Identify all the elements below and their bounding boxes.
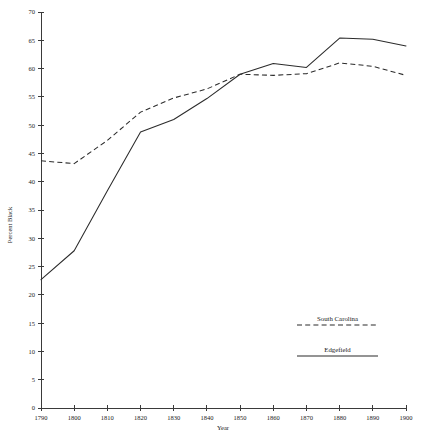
y-tick-label: 15 bbox=[29, 320, 36, 327]
x-axis-ticks: 1790180018101820183018401850186018701880… bbox=[35, 405, 413, 421]
series-line-south-carolina bbox=[41, 63, 406, 164]
y-tick-label: 45 bbox=[29, 150, 36, 157]
line-chart: 0510152025303540455055606570 17901800181… bbox=[0, 0, 425, 437]
y-tick-label: 20 bbox=[29, 291, 36, 298]
x-tick-label: 1870 bbox=[300, 414, 313, 421]
x-tick-label: 1810 bbox=[101, 414, 114, 421]
y-tick-label: 50 bbox=[29, 122, 36, 129]
x-tick-label: 1830 bbox=[167, 414, 180, 421]
y-axis-ticks: 0510152025303540455055606570 bbox=[29, 8, 45, 411]
x-tick-label: 1820 bbox=[134, 414, 147, 421]
legend-label-edgefield: Edgefield bbox=[324, 346, 351, 353]
axes bbox=[41, 12, 406, 408]
x-axis-title: Year bbox=[217, 424, 230, 431]
y-tick-label: 65 bbox=[29, 37, 36, 44]
x-tick-label: 1860 bbox=[267, 414, 280, 421]
y-tick-label: 5 bbox=[32, 376, 35, 383]
x-tick-label: 1850 bbox=[234, 414, 247, 421]
y-tick-label: 25 bbox=[29, 263, 36, 270]
y-tick-label: 40 bbox=[29, 178, 36, 185]
x-tick-label: 1890 bbox=[366, 414, 379, 421]
legend-label-south-carolina: South Carolina bbox=[317, 315, 358, 322]
y-axis-title: Percent Black bbox=[6, 206, 13, 243]
x-tick-label: 1800 bbox=[68, 414, 81, 421]
data-series-group bbox=[41, 38, 406, 280]
y-tick-label: 60 bbox=[29, 65, 36, 72]
y-tick-label: 30 bbox=[29, 235, 36, 242]
x-tick-label: 1880 bbox=[333, 414, 346, 421]
x-tick-label: 1840 bbox=[200, 414, 213, 421]
legend: South CarolinaEdgefield bbox=[297, 315, 378, 356]
y-tick-label: 70 bbox=[29, 8, 36, 15]
x-tick-label: 1790 bbox=[35, 414, 48, 421]
series-line-edgefield bbox=[41, 38, 406, 280]
y-tick-label: 0 bbox=[32, 404, 35, 411]
y-tick-label: 55 bbox=[29, 93, 36, 100]
chart-container: 0510152025303540455055606570 17901800181… bbox=[0, 0, 425, 437]
x-tick-label: 1900 bbox=[400, 414, 413, 421]
y-tick-label: 10 bbox=[29, 348, 36, 355]
y-tick-label: 35 bbox=[29, 206, 36, 213]
